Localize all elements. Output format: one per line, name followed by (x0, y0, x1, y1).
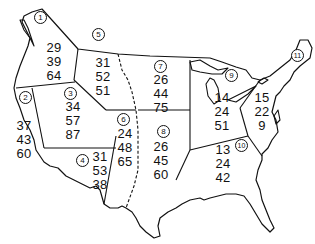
value: 24 (212, 157, 234, 171)
region-badge-8: 8 (157, 125, 170, 138)
value: 75 (150, 101, 172, 115)
region-values-2: 37 43 60 (13, 119, 35, 161)
value: 60 (13, 147, 35, 161)
value: 22 (251, 105, 273, 119)
value: 29 (43, 41, 65, 55)
region-badge-4: 4 (76, 154, 89, 167)
region-values-3: 34 57 87 (62, 100, 84, 142)
value: 31 (89, 150, 111, 164)
value: 43 (13, 133, 35, 147)
region-badge-9: 9 (225, 69, 238, 82)
region-values-11: 15 22 9 (251, 91, 273, 133)
region-badge-10: 10 (235, 139, 248, 152)
border-1-5 (74, 49, 78, 80)
region-values-1: 29 39 64 (43, 41, 65, 83)
value: 26 (150, 140, 172, 154)
region-values-7: 26 44 75 (150, 73, 172, 115)
region-badge-11: 11 (291, 49, 304, 62)
value: 64 (43, 69, 65, 83)
value: 13 (212, 143, 234, 157)
value: 38 (89, 178, 111, 192)
region-badge-1: 1 (34, 11, 47, 24)
value: 45 (150, 154, 172, 168)
region-values-4: 31 53 38 (89, 150, 111, 192)
value: 53 (89, 164, 111, 178)
value: 52 (92, 70, 114, 84)
region-values-6: 24 48 65 (114, 127, 136, 169)
region-values-8: 26 45 60 (150, 140, 172, 182)
region-values-9: 14 24 51 (211, 91, 233, 133)
value: 44 (150, 87, 172, 101)
value: 57 (62, 114, 84, 128)
region-values-5: 31 52 51 (92, 56, 114, 98)
region-badge-5: 5 (92, 28, 105, 41)
value: 26 (150, 73, 172, 87)
value: 42 (212, 171, 234, 185)
border-10-11 (248, 136, 262, 156)
value: 65 (114, 155, 136, 169)
value: 48 (114, 141, 136, 155)
region-badge-2: 2 (19, 91, 32, 104)
value: 87 (62, 128, 84, 142)
value: 15 (251, 91, 273, 105)
border-9-11b (240, 108, 248, 136)
lake-ontario (258, 78, 268, 84)
value: 24 (114, 127, 136, 141)
value: 9 (251, 119, 273, 133)
value: 34 (62, 100, 84, 114)
value: 60 (150, 168, 172, 182)
value: 24 (211, 105, 233, 119)
value: 51 (92, 84, 114, 98)
value: 14 (211, 91, 233, 105)
value: 37 (13, 119, 35, 133)
border-8-10b (176, 150, 190, 180)
region-badge-6: 6 (117, 113, 130, 126)
value: 51 (211, 119, 233, 133)
region-values-10: 13 24 42 (212, 143, 234, 185)
value: 39 (43, 55, 65, 69)
value: 31 (92, 56, 114, 70)
